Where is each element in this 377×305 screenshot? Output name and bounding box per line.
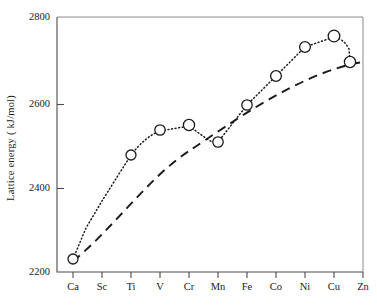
data-point-cr <box>183 119 194 130</box>
data-point-v <box>155 125 165 135</box>
data-point-ti <box>126 150 136 160</box>
data-point-mn <box>213 137 223 147</box>
data-point-ca <box>68 254 78 264</box>
data-point-co <box>271 71 282 82</box>
data-point-fe <box>242 100 252 110</box>
y-axis-ticks <box>57 105 64 189</box>
data-point-markers <box>68 30 356 264</box>
series-dotted-experimental <box>73 37 350 259</box>
data-point-ni <box>300 42 311 53</box>
data-point-cu <box>328 30 340 42</box>
plot-canvas <box>0 0 377 305</box>
lattice-energy-chart: Lattice energy ( kJ/mol) 2800 2600 2400 … <box>0 0 377 305</box>
x-axis-ticks <box>73 272 363 278</box>
axes-frame <box>57 17 363 272</box>
data-point-zn <box>344 56 355 67</box>
series-dashed-trend <box>73 62 363 261</box>
